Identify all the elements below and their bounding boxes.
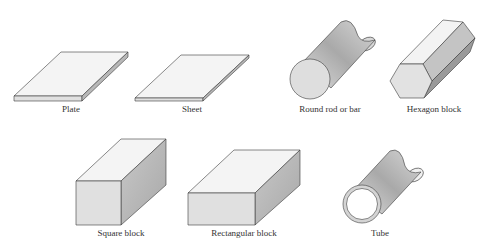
hexagon-block-shape <box>390 20 475 98</box>
rectangular-block-label: Rectangular block <box>211 228 277 238</box>
plate-shape <box>14 52 128 101</box>
round-rod-shape <box>290 21 378 99</box>
stock-shapes-diagram: Plate Sheet Round rod or bar Hexagon blo… <box>0 0 495 248</box>
sheet-label: Sheet <box>182 104 202 114</box>
shapes-illustration <box>0 0 495 248</box>
tube-shape <box>343 150 426 223</box>
square-block-label: Square block <box>97 228 144 238</box>
rectangular-block-shape <box>188 150 300 225</box>
hexagon-block-label: Hexagon block <box>407 104 462 114</box>
sheet-shape <box>135 55 249 101</box>
plate-label: Plate <box>62 104 80 114</box>
square-block-shape <box>76 139 166 225</box>
round-rod-label: Round rod or bar <box>299 104 361 114</box>
tube-label: Tube <box>371 228 389 238</box>
